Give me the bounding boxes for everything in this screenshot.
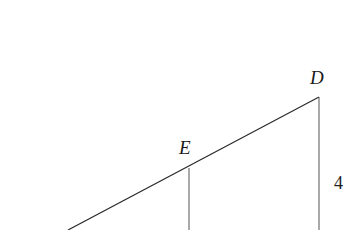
point-label-d: D	[309, 67, 324, 88]
geometry-diagram: D E 4	[0, 0, 350, 230]
length-label-4: 4	[334, 173, 343, 193]
point-label-e: E	[178, 137, 191, 158]
line-segment-through-e-to-d	[68, 97, 319, 230]
